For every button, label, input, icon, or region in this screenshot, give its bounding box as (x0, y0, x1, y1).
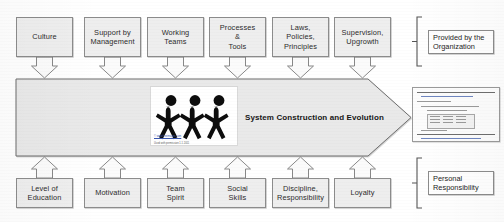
node-level-of-education[interactable]: Level of Education (16, 178, 73, 208)
group-label-personal-responsibility: Personal Responsibility (428, 171, 494, 195)
people-image-caption-permission: Used with permission 1.1 2011 (154, 142, 189, 145)
bracket-personal-responsibility (412, 158, 422, 208)
bracket-provided-by-organization (412, 17, 422, 66)
down-arrow-processes-tools (225, 57, 251, 78)
node-loyalty[interactable]: Loyalty (334, 178, 391, 208)
up-arrow-discipline-responsibility (288, 157, 314, 178)
up-arrow-motivation (100, 157, 126, 178)
page-title: System Construction and Evolution (245, 113, 384, 122)
down-arrow-culture (32, 57, 58, 78)
node-social-skills[interactable]: Social Skills (209, 178, 266, 208)
node-discipline-responsibility[interactable]: Discipline, Responsibility (272, 178, 329, 208)
up-arrow-social-skills (225, 157, 251, 178)
people-image-caption: © www.freeimages.com Used with permissio… (154, 132, 189, 146)
up-arrow-level-of-education (32, 157, 58, 178)
node-processes-and-tools[interactable]: Processes & Tools (209, 17, 266, 57)
people-image-caption-link[interactable]: © www.freeimages.com (154, 135, 181, 138)
node-motivation[interactable]: Motivation (84, 178, 141, 208)
node-working-teams[interactable]: Working Teams (147, 17, 204, 57)
diagram-canvas: Culture Support by Management Working Te… (0, 0, 504, 222)
source-code-document-thumbnail[interactable] (412, 87, 500, 142)
up-arrow-team-spirit (163, 157, 189, 178)
node-support-by-management[interactable]: Support by Management (84, 17, 141, 57)
node-culture[interactable]: Culture (16, 17, 73, 57)
people-image-card: © www.freeimages.com Used with permissio… (150, 86, 238, 146)
down-arrow-working-teams (163, 57, 189, 78)
down-arrow-supervision-upgrowth (350, 57, 376, 78)
up-arrow-loyalty (350, 157, 376, 178)
node-supervision-upgrowth[interactable]: Supervision, Upgrowth (334, 17, 391, 57)
down-arrow-support-by-management (100, 57, 126, 78)
node-laws-policies-principles[interactable]: Laws, Policies, Principles (272, 17, 329, 57)
node-team-spirit[interactable]: Team Spirit (147, 178, 204, 208)
down-arrow-laws-policies-principles (288, 57, 314, 78)
group-label-provided-by-the-organization: Provided by the Organization (428, 30, 494, 54)
